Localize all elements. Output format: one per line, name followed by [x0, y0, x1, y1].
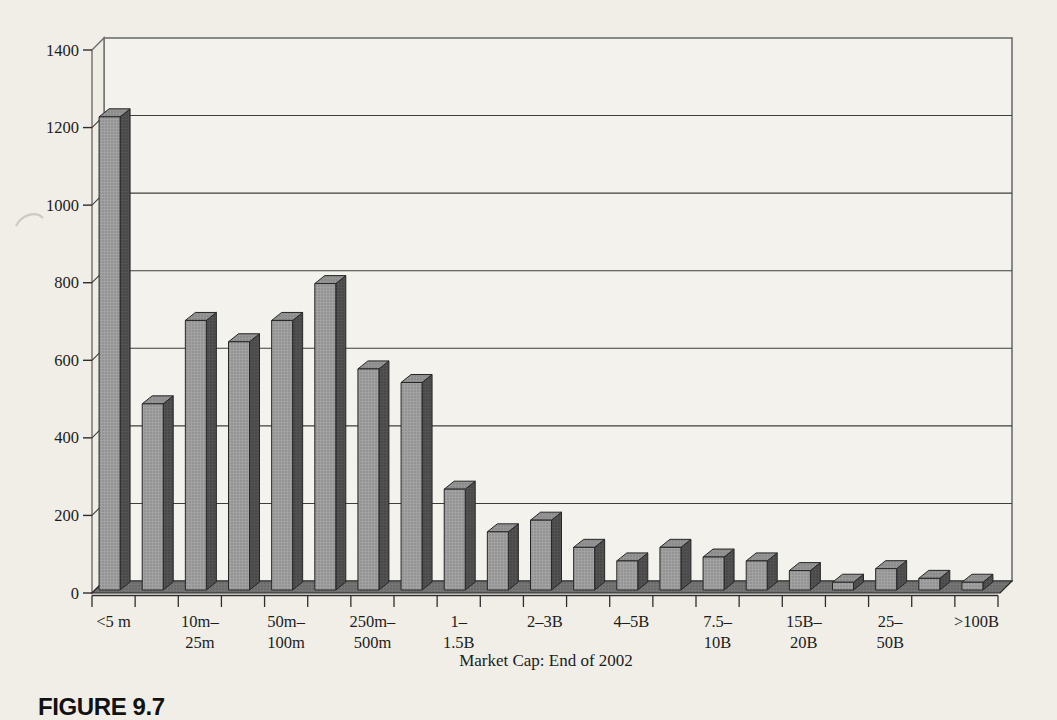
- x-tick-label: 100m: [267, 633, 305, 652]
- x-tick-label: 20B: [790, 633, 818, 652]
- y-tick-label: 400: [54, 428, 79, 447]
- bar: [703, 549, 734, 590]
- y-tick-label: 1000: [46, 196, 79, 215]
- bar: [660, 539, 691, 590]
- bar: [272, 312, 303, 590]
- scan-artifact: [16, 214, 43, 226]
- y-tick-label: 0: [71, 584, 79, 603]
- x-tick-label: 25m: [185, 633, 215, 652]
- bar: [315, 276, 346, 590]
- x-tick-label: 50m–: [267, 612, 305, 631]
- bar: [358, 361, 389, 590]
- x-axis: [92, 596, 998, 608]
- x-tick-label: 1–: [450, 612, 467, 631]
- bar: [401, 374, 432, 590]
- y-tick-label: 1200: [46, 118, 79, 137]
- bar: [142, 396, 173, 590]
- bar: [444, 481, 475, 590]
- bar: [617, 553, 648, 590]
- bar: [746, 553, 777, 590]
- x-tick-label: 25–: [878, 612, 904, 631]
- bar: [487, 524, 518, 590]
- x-tick-label: 250m–: [350, 612, 397, 631]
- x-tick-label: 4–5B: [613, 612, 649, 631]
- bar: [574, 539, 605, 590]
- bar: [99, 109, 130, 590]
- bar: [229, 334, 260, 590]
- figure-caption: FIGURE 9.7: [38, 693, 165, 720]
- x-tick-labels: <5 m10m–25m50m–100m250m–500m1–1.5B2–3B4–…: [96, 612, 999, 652]
- y-tick-label: 800: [54, 273, 79, 292]
- y-tick-label: 600: [54, 351, 79, 370]
- x-tick-label: <5 m: [96, 612, 131, 631]
- x-tick-label: 500m: [354, 633, 392, 652]
- x-tick-label: 10B: [704, 633, 732, 652]
- bar: [185, 312, 216, 590]
- bar: [876, 561, 907, 590]
- x-tick-label: 1.5B: [443, 633, 475, 652]
- x-axis-title: Market Cap: End of 2002: [459, 651, 633, 671]
- x-tick-label: 15B–: [786, 612, 823, 631]
- x-tick-label: 2–3B: [527, 612, 563, 631]
- x-tick-label: 50B: [876, 633, 904, 652]
- bar: [531, 512, 562, 590]
- bar: [789, 563, 820, 590]
- x-tick-label: 10m–: [181, 612, 219, 631]
- y-tick-label: 1400: [46, 41, 79, 60]
- x-tick-label: 7.5–: [703, 612, 733, 631]
- market-cap-bar-chart: 0200400600800100012001400<5 m10m–25m50m–…: [0, 0, 1057, 690]
- scanned-page: 0200400600800100012001400<5 m10m–25m50m–…: [0, 0, 1057, 720]
- y-tick-label: 200: [54, 506, 79, 525]
- x-tick-label: >100B: [954, 612, 999, 631]
- y-axis: 0200400600800100012001400: [46, 41, 92, 603]
